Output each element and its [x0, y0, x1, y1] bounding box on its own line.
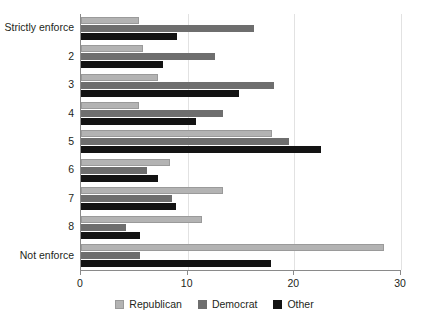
bar-group [81, 213, 401, 241]
y-axis-label: Not enforce [0, 250, 74, 261]
bar-democrat [81, 167, 147, 174]
bar-republican [81, 74, 158, 81]
legend-label: Democrat [212, 298, 258, 310]
bar-other [81, 146, 321, 153]
x-axis-ticks: 0102030 [80, 270, 400, 292]
y-axis-label: 8 [0, 221, 74, 232]
x-tick-label: 20 [287, 277, 299, 289]
y-axis-label: 2 [0, 51, 74, 62]
y-axis-label: 3 [0, 79, 74, 90]
legend: RepublicanDemocratOther [0, 298, 429, 310]
bar-democrat [81, 224, 126, 231]
bar-group [81, 42, 401, 70]
bar-other [81, 175, 158, 182]
y-axis-label: 4 [0, 108, 74, 119]
bar-chart: Strictly enforce2345678Not enforce 01020… [0, 0, 429, 326]
legend-item-democrat[interactable]: Democrat [198, 298, 258, 310]
y-axis-label: 7 [0, 193, 74, 204]
bar-republican [81, 102, 139, 109]
bar-other [81, 90, 239, 97]
gridline-30 [401, 14, 402, 270]
bar-democrat [81, 110, 223, 117]
plot-area [80, 14, 401, 271]
bar-democrat [81, 252, 140, 259]
bar-group [81, 99, 401, 127]
bar-democrat [81, 25, 254, 32]
bar-republican [81, 216, 202, 223]
legend-label: Other [287, 298, 313, 310]
bar-group [81, 156, 401, 184]
x-tick-mark [80, 270, 81, 275]
bar-republican [81, 244, 384, 251]
legend-swatch-other-icon [273, 300, 282, 309]
x-tick-mark [400, 270, 401, 275]
y-axis-label: 5 [0, 136, 74, 147]
bar-other [81, 260, 271, 267]
x-tick-label: 10 [181, 277, 193, 289]
bar-group [81, 185, 401, 213]
legend-label: Republican [129, 298, 182, 310]
bar-other [81, 118, 196, 125]
bar-groups [81, 14, 401, 270]
bar-democrat [81, 82, 274, 89]
x-tick-label: 0 [77, 277, 83, 289]
bar-group [81, 128, 401, 156]
bar-republican [81, 45, 143, 52]
y-axis-labels: Strictly enforce2345678Not enforce [0, 14, 74, 270]
bar-democrat [81, 53, 215, 60]
legend-item-other[interactable]: Other [273, 298, 313, 310]
bar-republican [81, 130, 272, 137]
bar-group [81, 71, 401, 99]
x-tick-label: 30 [394, 277, 406, 289]
bar-republican [81, 187, 223, 194]
y-axis-label: 6 [0, 164, 74, 175]
legend-swatch-democrat-icon [198, 300, 207, 309]
bar-group [81, 14, 401, 42]
bar-other [81, 33, 177, 40]
bar-democrat [81, 138, 289, 145]
bar-republican [81, 159, 170, 166]
legend-swatch-republican-icon [115, 300, 124, 309]
x-tick-mark [187, 270, 188, 275]
bar-republican [81, 17, 139, 24]
bar-democrat [81, 195, 172, 202]
legend-item-republican[interactable]: Republican [115, 298, 182, 310]
bar-other [81, 203, 176, 210]
bar-group [81, 242, 401, 270]
x-tick-mark [293, 270, 294, 275]
bar-other [81, 61, 163, 68]
y-axis-label: Strictly enforce [0, 22, 74, 33]
bar-other [81, 232, 140, 239]
